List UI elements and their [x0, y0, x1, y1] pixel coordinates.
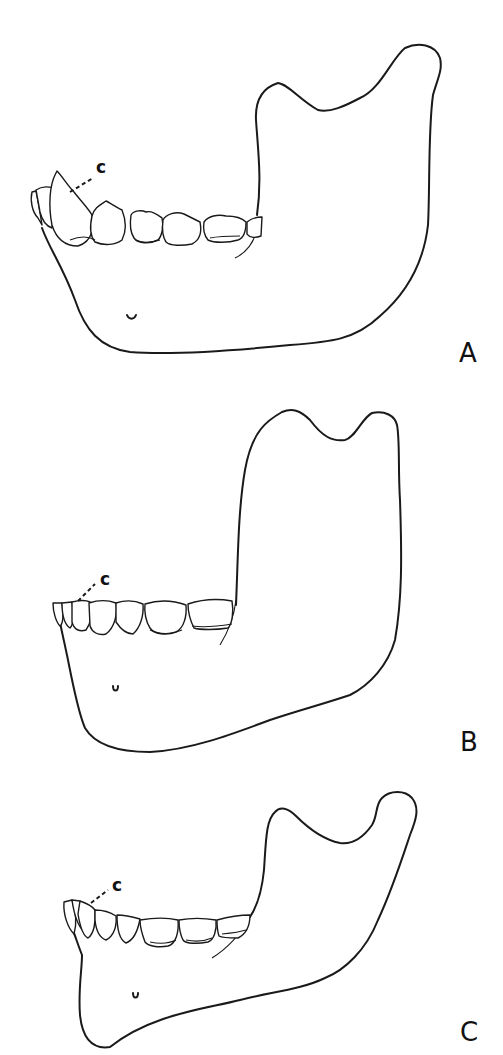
- mandible-b-premolar: [89, 601, 117, 635]
- mandible-c-molar: [179, 919, 216, 944]
- mandible-a-molar: [162, 213, 200, 245]
- mandible-figure: [0, 0, 503, 1055]
- mandible-a: [31, 45, 441, 353]
- mandible-c-premolar: [117, 915, 140, 943]
- mandible-a-canine-pointer: [70, 178, 93, 192]
- panel-label-c: C: [460, 1019, 478, 1045]
- mandible-c-premolar: [95, 910, 116, 940]
- mandible-c-canine: [78, 901, 95, 938]
- mandible-a-premolar: [130, 211, 162, 243]
- mandible-b-premolar: [116, 601, 143, 634]
- mandible-c: [64, 792, 417, 1047]
- mandible-b-molar: [145, 601, 186, 634]
- panel-label-a: A: [459, 340, 477, 366]
- canine-label-c: c: [112, 877, 122, 894]
- mandible-a-molar: [247, 217, 262, 237]
- mandible-a-premolar: [91, 201, 126, 244]
- mandible-b-canine-pointer: [78, 584, 95, 601]
- mandible-c-canine-pointer: [91, 890, 108, 903]
- canine-label-a: c: [96, 159, 106, 176]
- canine-label-b: c: [100, 571, 110, 588]
- mandible-a-outline: [42, 45, 441, 353]
- mandible-b-canine: [72, 601, 91, 631]
- panel-label-b: B: [460, 729, 478, 755]
- mandible-b-mental-foramen: [113, 686, 118, 691]
- mandible-a-molar: [204, 215, 246, 242]
- mandible-c-mental-foramen: [133, 993, 138, 998]
- mandible-a-canine: [50, 171, 92, 246]
- mandible-a-mental-foramen: [127, 315, 136, 319]
- mandible-c-molar: [217, 915, 250, 938]
- mandible-c-molar: [140, 918, 178, 947]
